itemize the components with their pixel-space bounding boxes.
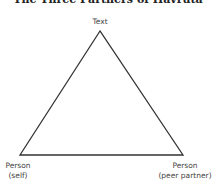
- node-peer-label: Person (peer partner): [155, 161, 215, 181]
- node-self-line1: Person: [0, 161, 36, 171]
- triangle-diagram: [0, 0, 216, 185]
- node-text-label: Text: [85, 17, 115, 27]
- node-peer-line2: (peer partner): [155, 171, 215, 181]
- triangle-shape: [20, 31, 183, 155]
- node-self-line2: (self): [0, 171, 36, 181]
- node-self-label: Person (self): [0, 161, 36, 181]
- node-peer-line1: Person: [155, 161, 215, 171]
